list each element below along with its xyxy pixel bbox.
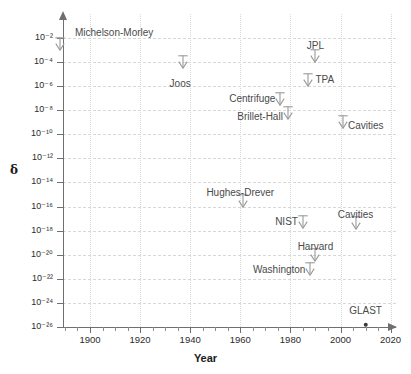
- y-axis-line: [63, 18, 64, 327]
- x-tick-mark-minor: [203, 327, 204, 331]
- x-tick-label: 1900: [79, 335, 100, 345]
- upper-limit-arrow-icon: [282, 106, 293, 120]
- data-point-label: TPA: [315, 75, 334, 85]
- y-axis-arrowhead-icon: [59, 11, 67, 20]
- x-tick-mark: [341, 327, 342, 333]
- x-tick-label: 1920: [130, 335, 151, 345]
- x-tick-mark-minor: [315, 327, 316, 331]
- y-tick-label: 10⁻⁴: [34, 57, 53, 66]
- upper-limit-arrow-icon: [177, 55, 188, 69]
- gridline-vertical: [90, 14, 91, 327]
- x-tick-mark-minor: [253, 327, 254, 331]
- data-point-label: Centrifuge: [229, 94, 275, 104]
- data-point-dot: [363, 322, 368, 327]
- gridline-horizontal: [63, 134, 396, 135]
- data-point-label: Cavities: [348, 121, 384, 131]
- gridline-horizontal: [63, 158, 396, 159]
- y-tick-label: 10⁻²²: [32, 274, 53, 283]
- y-tick-label: 10⁻⁶: [34, 81, 53, 90]
- data-point-label: Brillet-Hall: [237, 112, 283, 122]
- y-tick-mark: [57, 86, 63, 87]
- gridline-horizontal: [63, 303, 396, 304]
- x-tick-mark-minor: [178, 327, 179, 331]
- x-tick-mark-minor: [353, 327, 354, 331]
- upper-limit-arrow-icon: [54, 37, 65, 51]
- data-point-label: NIST: [275, 217, 298, 227]
- x-axis-line: [63, 327, 396, 328]
- y-tick-mark: [57, 62, 63, 63]
- x-tick-mark-minor: [215, 327, 216, 331]
- gridline-vertical: [290, 14, 291, 327]
- x-tick-mark: [240, 327, 241, 333]
- y-tick-label: 10⁻¹⁸: [31, 226, 53, 235]
- x-tick-mark: [290, 327, 291, 333]
- gridline-horizontal: [63, 62, 396, 63]
- y-tick-label: 10⁻¹⁴: [31, 177, 53, 186]
- x-tick-label: 1940: [180, 335, 201, 345]
- gridline-vertical: [240, 14, 241, 327]
- gridline-vertical: [140, 14, 141, 327]
- x-tick-mark-minor: [153, 327, 154, 331]
- gridline-vertical: [391, 14, 392, 327]
- y-tick-mark: [57, 303, 63, 304]
- gridline-horizontal: [63, 255, 396, 256]
- y-tick-mark: [57, 327, 63, 328]
- x-tick-mark: [90, 327, 91, 333]
- gridline-horizontal: [63, 231, 396, 232]
- y-tick-label: 10⁻¹⁶: [31, 202, 53, 211]
- y-tick-mark: [57, 207, 63, 208]
- x-tick-mark-minor: [115, 327, 116, 331]
- gridline-vertical: [190, 14, 191, 327]
- x-tick-mark-minor: [128, 327, 129, 331]
- gridline-horizontal: [63, 110, 396, 111]
- upper-limit-arrow-icon: [302, 73, 313, 87]
- x-tick-mark-minor: [65, 327, 66, 331]
- x-tick-mark-minor: [303, 327, 304, 331]
- x-tick-mark-minor: [278, 327, 279, 331]
- x-tick-mark: [190, 327, 191, 333]
- x-tick-mark-minor: [265, 327, 266, 331]
- y-tick-label: 10⁻¹⁰: [31, 129, 53, 138]
- data-point-label: Harvard: [298, 242, 334, 252]
- y-tick-label: 10⁻²⁶: [31, 322, 53, 331]
- gridline-horizontal: [63, 182, 396, 183]
- data-point-label: JPL: [307, 41, 324, 51]
- y-tick-mark: [57, 255, 63, 256]
- x-tick-mark: [140, 327, 141, 333]
- y-tick-mark: [57, 182, 63, 183]
- chart-canvas: 10⁻²10⁻⁴10⁻⁶10⁻⁸10⁻¹⁰10⁻¹²10⁻¹⁴10⁻¹⁶10⁻¹…: [0, 0, 411, 374]
- x-tick-mark-minor: [77, 327, 78, 331]
- x-tick-mark-minor: [366, 327, 367, 331]
- y-tick-label: 10⁻²⁰: [31, 250, 53, 259]
- upper-limit-arrow-icon: [297, 215, 308, 229]
- y-tick-label: 10⁻¹²: [32, 153, 53, 162]
- y-tick-mark: [57, 134, 63, 135]
- y-tick-label: 10⁻²: [35, 33, 53, 42]
- y-tick-mark: [57, 279, 63, 280]
- upper-limit-arrow-icon: [275, 92, 286, 106]
- x-axis-title: Year: [0, 352, 411, 364]
- x-tick-label: 1960: [230, 335, 251, 345]
- gridline-horizontal: [63, 279, 396, 280]
- x-tick-label: 2020: [380, 335, 401, 345]
- gridline-vertical: [341, 14, 342, 327]
- x-tick-mark-minor: [328, 327, 329, 331]
- plot-area: [63, 14, 396, 327]
- y-tick-mark: [57, 158, 63, 159]
- data-point-label: GLAST: [349, 306, 382, 316]
- y-tick-mark: [57, 110, 63, 111]
- upper-limit-arrow-icon: [338, 115, 349, 129]
- y-tick-label: 10⁻⁸: [34, 105, 53, 114]
- x-tick-mark-minor: [103, 327, 104, 331]
- x-tick-mark-minor: [165, 327, 166, 331]
- gridline-horizontal: [63, 207, 396, 208]
- x-tick-mark: [391, 327, 392, 333]
- gridline-horizontal: [63, 86, 396, 87]
- y-tick-label: 10⁻²⁴: [31, 298, 53, 307]
- y-axis-title: δ: [10, 163, 18, 177]
- x-tick-mark-minor: [228, 327, 229, 331]
- upper-limit-arrow-icon: [305, 262, 316, 276]
- data-point-label: Joos: [170, 79, 191, 89]
- data-point-label: Michelson-Morley: [75, 28, 153, 38]
- data-point-label: Washington: [253, 265, 305, 275]
